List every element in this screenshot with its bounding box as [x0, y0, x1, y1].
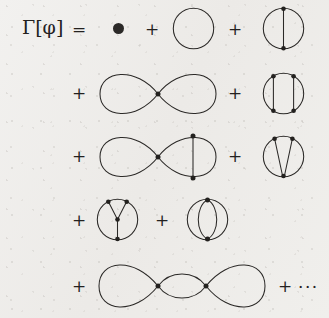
plus-operator-r5b: + — [278, 278, 292, 295]
diagram-bare-circle — [172, 7, 215, 50]
ellipsis-label: ··· — [298, 279, 319, 296]
diagram-filled-dot — [113, 23, 124, 34]
diagram-triple-loop-chain — [96, 258, 268, 314]
plus-operator-r2b: + — [228, 85, 242, 102]
equals-operator: = — [72, 21, 86, 38]
diagram-circle-v-chords — [262, 135, 305, 178]
plus-operator-r5a: + — [72, 278, 86, 295]
diagram-stage: Γ[φ] = + + + + + + — [0, 0, 329, 318]
plus-operator-r3a: + — [72, 148, 86, 165]
plus-operator-r1b: + — [228, 21, 242, 38]
plus-operator-r2a: + — [72, 85, 86, 102]
diagram-figure-eight — [96, 68, 220, 120]
plus-operator-r4b: + — [155, 212, 169, 229]
diagram-figure-eight-with-chord — [96, 131, 220, 183]
diagram-circle-y-chords — [96, 198, 139, 241]
plus-operator-r1a: + — [145, 21, 159, 38]
diagram-circle-one-chord — [262, 7, 305, 50]
plus-operator-r3b: + — [228, 148, 242, 165]
plus-operator-r4a: + — [72, 212, 86, 229]
diagram-circle-two-chords — [262, 72, 305, 115]
diagram-watermelon — [186, 198, 229, 241]
equation-label-gamma-phi: Γ[φ] — [22, 18, 63, 37]
